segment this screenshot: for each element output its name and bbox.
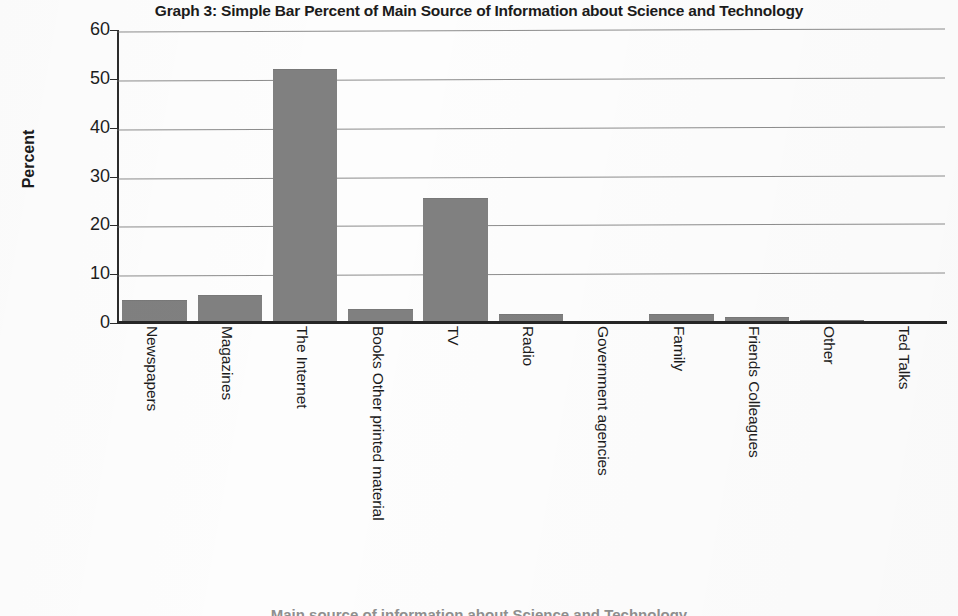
x-tick-label: Ted Talks: [895, 326, 913, 389]
y-tick-mark: [110, 323, 117, 324]
y-tick-label: 30: [40, 166, 110, 187]
x-axis-tick-labels: NewspapersMagazinesThe InternetBooks Oth…: [117, 326, 947, 616]
x-tick-label: The Internet: [293, 326, 311, 408]
x-tick-label: Government agencies: [594, 326, 612, 476]
gridline: [117, 224, 945, 228]
x-tick-label: TV: [444, 326, 462, 346]
y-tick-mark: [110, 274, 117, 275]
y-tick-label: 40: [40, 117, 110, 138]
y-axis-tick-labels: 6050403020100: [32, 30, 110, 323]
gridline: [117, 175, 945, 179]
gridline: [117, 28, 945, 32]
y-tick-label: 10: [40, 263, 110, 284]
bar: [198, 295, 263, 323]
bar: [122, 300, 187, 323]
y-tick-mark: [110, 128, 117, 129]
x-tick-label: Magazines: [218, 326, 236, 400]
plot-area: [117, 30, 945, 323]
y-tick-mark: [110, 225, 117, 226]
y-tick-label: 60: [40, 19, 110, 40]
y-tick-label: 0: [40, 312, 110, 333]
y-tick-mark: [110, 79, 117, 80]
bar: [273, 69, 338, 323]
y-tick-mark: [110, 30, 117, 31]
bar: [423, 198, 488, 324]
x-tick-label: Radio: [519, 326, 537, 366]
gridline: [117, 77, 945, 81]
page-title: Graph 3: Simple Bar Percent of Main Sour…: [0, 2, 958, 20]
x-tick-label: Other: [820, 326, 838, 364]
gridline: [117, 126, 945, 130]
x-tick-label: Friends Colleagues: [745, 326, 763, 458]
chart-page: Graph 3: Simple Bar Percent of Main Sour…: [0, 0, 958, 616]
x-axis-line: [117, 321, 947, 324]
x-tick-label: Books Other printed material: [369, 326, 387, 521]
y-tick-mark: [110, 177, 117, 178]
x-tick-label: Family: [670, 326, 688, 371]
y-tick-label: 50: [40, 68, 110, 89]
x-axis-title: Main source of information about Science…: [0, 606, 958, 616]
x-tick-label: Newspapers: [143, 326, 161, 411]
gridline: [117, 273, 945, 277]
y-tick-label: 20: [40, 214, 110, 235]
